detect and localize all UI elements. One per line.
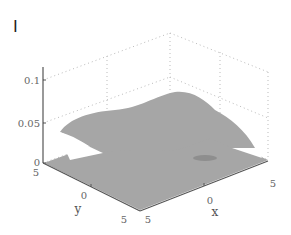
x-axis-label: x [212, 205, 219, 219]
z-tick-0.1: 0.1 [24, 75, 40, 86]
x-tick-neg5: 5 [145, 214, 151, 225]
y-tick-0: 0 [81, 190, 87, 201]
y-axis-label: y [74, 202, 82, 216]
x-tick-5: 5 [270, 178, 276, 189]
surface-shadow [193, 155, 217, 161]
z-tick-0.05: 0.05 [18, 118, 40, 129]
y-tick-5: 5 [33, 167, 39, 178]
surface-plot: 0.1 0.05 0 5 0 5 5 0 5 y x [0, 0, 291, 235]
y-tick-neg5: 5 [121, 214, 127, 225]
